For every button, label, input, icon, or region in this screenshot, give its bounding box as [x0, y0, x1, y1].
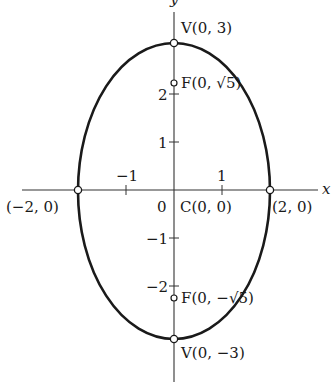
bottom-vertex-point — [170, 335, 177, 342]
y-tick-label-neg1: −1 — [146, 230, 168, 248]
right-vertex-label: (2, 0) — [272, 198, 312, 216]
bottom-focus-label: F(0, −√5) — [181, 289, 254, 307]
center-label: C(0, 0) — [180, 198, 232, 216]
left-vertex-label: (−2, 0) — [6, 198, 59, 216]
ellipse-diagram: x y −1 1 2 1 −1 −2 0 V(0, 3) V(0, −3) F(… — [0, 0, 333, 386]
y-tick-label-neg2: −2 — [146, 278, 168, 296]
right-vertex-point — [266, 186, 273, 193]
left-vertex-point — [74, 186, 81, 193]
top-focus-point — [171, 80, 177, 86]
top-vertex-point — [170, 39, 177, 46]
x-tick-label-1: 1 — [217, 167, 227, 185]
top-vertex-label: V(0, 3) — [180, 19, 232, 37]
svg-text:F(0, √5): F(0, √5) — [181, 74, 241, 92]
y-axis-label: y — [169, 0, 179, 8]
y-tick-label-2: 2 — [158, 86, 168, 104]
bottom-vertex-label: V(0, −3) — [180, 344, 245, 362]
y-tick-label-1: 1 — [158, 134, 168, 152]
x-axis-label: x — [322, 180, 331, 198]
bottom-focus-point — [171, 295, 177, 301]
top-focus-label: F(0, √5) — [181, 74, 241, 92]
origin-label: 0 — [157, 198, 167, 216]
svg-text:F(0, −√5): F(0, −√5) — [181, 289, 254, 307]
x-tick-label-neg1: −1 — [116, 167, 138, 185]
